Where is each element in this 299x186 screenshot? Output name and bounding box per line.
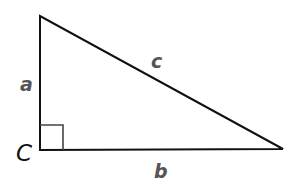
- side-a-label: a: [20, 73, 33, 95]
- vertex-c-label: C: [16, 140, 32, 166]
- right-triangle-diagram: a c b C: [0, 0, 299, 186]
- side-c-label: c: [151, 50, 163, 72]
- right-angle-marker: [40, 125, 63, 150]
- triangle-outline: [40, 16, 283, 150]
- side-b-label: b: [154, 160, 168, 182]
